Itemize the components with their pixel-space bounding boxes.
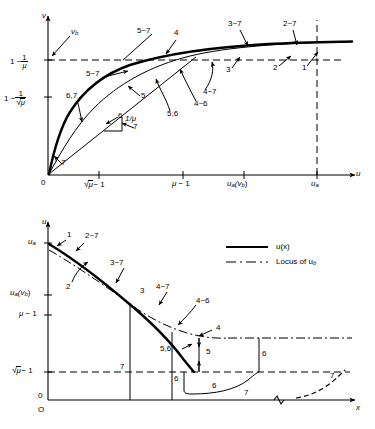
bottom-annot-6-right: 6 [262, 350, 266, 358]
top-axis-label-u: u [356, 170, 360, 178]
bottom-annot-4: 4 [216, 324, 220, 332]
top-axis-label-v: v [42, 12, 46, 20]
xtick1-post: − 1 [93, 180, 104, 189]
top-annot-7-origin: 7 [61, 159, 65, 167]
top-panel-graphics [44, 16, 355, 179]
top-annot-5to7-left: 5~7 [86, 70, 100, 78]
bottom-annot-6-mid: 6 [212, 382, 216, 390]
top-annot-3: 3 [226, 66, 230, 74]
top-annot-7-slope: 7 [133, 123, 137, 131]
bottom-annot-6-left: 6 [174, 375, 178, 383]
top-annot-4to6: 4~6 [194, 100, 208, 108]
top-origin-label: 0 [41, 179, 45, 187]
ytick1-den: μ [21, 61, 27, 70]
top-annot-2: 2 [273, 64, 277, 72]
bottom-axis-label-x: x [356, 404, 360, 412]
bottom-annot-3: 3 [140, 287, 144, 295]
top-xtick-ua-vb: ua(vb) [227, 180, 247, 188]
top-annot-6: 6 [118, 112, 122, 120]
top-ytick-1-minus-1-over-sqrt-mu: 1 −1μ [4, 90, 26, 107]
ytick2-num: 1 [15, 90, 26, 98]
ytick2-lead: 1 − [4, 94, 15, 103]
bottom-zero-label: 0 [38, 392, 42, 400]
sqrt-icon: μ [84, 180, 93, 189]
bottom-ytick-mu-minus-1: μ− 1 [19, 310, 37, 318]
bottom-panel-graphics [0, 0, 355, 404]
bottom-ytick-sqrt-mu-minus-1: μ− 1 [12, 366, 33, 375]
top-vb-label: vb [71, 28, 78, 36]
legend-label-ux: u(x) [276, 243, 290, 251]
sqrt-icon: μ [12, 366, 21, 375]
top-annot-4: 4 [174, 29, 178, 37]
top-annot-4to7: 4~7 [203, 88, 217, 96]
vb-sub: b [75, 30, 78, 36]
bottom-annot-5-6: 5,6 [160, 345, 171, 353]
figure-graphics [0, 0, 375, 429]
bottom-annot-1: 1 [67, 231, 71, 239]
bottom-axis-label-u: u [42, 218, 46, 226]
ytick1-num: 1 [21, 54, 27, 62]
sqrt-icon: μ [16, 98, 25, 107]
top-annot-6-7: 6,7 [66, 92, 77, 100]
top-xtick-mu-minus-1: μ− 1 [172, 180, 190, 188]
ytick2-den: μ [15, 97, 26, 107]
top-annot-2to7: 2~7 [283, 20, 297, 28]
top-annot-3to7: 3~7 [228, 20, 242, 28]
bottom-annot-7-mid: 7 [244, 389, 248, 397]
legend-label-locus-ub: Locus of ub [276, 258, 316, 266]
bottom-annot-4to7: 4~7 [156, 283, 170, 291]
ytick1-fraction: 1μ [21, 54, 27, 70]
bottom-annot-5: 5 [206, 348, 210, 356]
bottom-origin-label: O [38, 406, 44, 414]
bottom-annot-2to7: 2~7 [85, 232, 99, 240]
top-xtick-ua: ua [311, 180, 319, 188]
figure-container: v u 0 vb 1 −1μ 1 −1μ μ− 1 μ− 1 ua(vb) ua… [0, 0, 375, 429]
top-annot-5to7-upper: 5~7 [137, 27, 151, 35]
top-annot-1: 1 [302, 64, 306, 72]
top-annot-5: 5 [141, 92, 145, 100]
bottom-ytick-ua: ua [28, 238, 36, 246]
bottom-annot-3to7: 3~7 [110, 259, 124, 267]
bottom-annot-2: 2 [66, 283, 70, 291]
bottom-annot-4to6: 4~6 [196, 297, 210, 305]
bottom-annot-7-left: 7 [120, 363, 124, 371]
ytick2-fraction: 1μ [15, 90, 26, 107]
bottom-annot-7-right: 7 [330, 372, 334, 380]
top-xtick-sqrt-mu-minus-1: μ− 1 [84, 180, 105, 189]
top-annot-5-6: 5,6 [167, 110, 178, 118]
bottom-ytick-ua-vb: ua(vb) [10, 289, 30, 297]
top-ytick-1-minus-1-over-mu: 1 −1μ [10, 54, 28, 70]
ytick1-lead: 1 − [10, 57, 21, 66]
